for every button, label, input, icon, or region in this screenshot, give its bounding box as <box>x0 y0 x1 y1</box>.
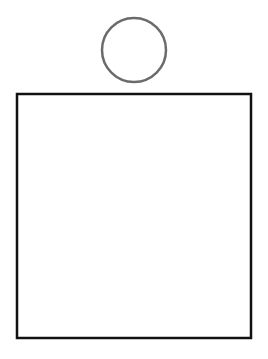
diagram-canvas <box>0 0 268 359</box>
diagram-svg <box>0 0 268 359</box>
head-circle <box>102 18 166 82</box>
body-rectangle <box>17 94 251 338</box>
